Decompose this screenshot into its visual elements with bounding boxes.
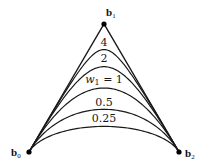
control-point-label-b0: b0 (11, 146, 21, 160)
control-point-b1 (101, 21, 106, 26)
control-point-b2 (176, 149, 181, 154)
control-point-label-b2: b2 (185, 147, 195, 161)
control-point-label-b1: b1 (106, 6, 116, 20)
rational-bezier-diagram: 42w1 = 10.50.25 b0b1b2 (0, 0, 208, 166)
weight-label: 2 (101, 52, 108, 65)
weight-label: 4 (101, 36, 108, 49)
control-point-b0 (26, 149, 31, 154)
weight-label: 0.5 (95, 96, 113, 109)
curve-weight-0_25 (29, 126, 179, 152)
weight-label: w1 = 1 (85, 73, 123, 87)
weight-label: 0.25 (92, 112, 117, 125)
